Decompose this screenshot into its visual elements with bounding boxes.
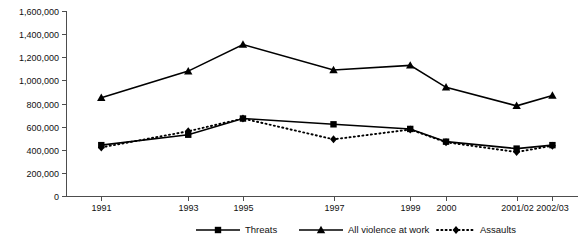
x-axis-label: 1999 <box>400 203 420 213</box>
x-axis-ticks <box>102 197 553 202</box>
series-all-violence-at-work <box>97 40 557 109</box>
x-axis-label: 1997 <box>324 203 344 213</box>
y-axis-label: 600,000 <box>26 123 59 133</box>
legend-item-all-violence-at-work[interactable]: All violence at work <box>299 224 430 235</box>
legend-item-threats[interactable]: Threats <box>196 224 277 235</box>
triangle-marker <box>184 67 192 74</box>
series-line <box>101 45 552 106</box>
y-axis-label: 1,200,000 <box>19 53 59 63</box>
y-axis-label: 200,000 <box>26 169 59 179</box>
x-axis-label: 2001/02 <box>501 203 534 213</box>
legend-label: All violence at work <box>348 224 430 235</box>
series-threats <box>98 115 556 151</box>
y-axis-ticks <box>62 12 67 197</box>
diamond-marker <box>330 135 337 143</box>
triangle-marker <box>442 83 450 90</box>
x-axis: 1991199319951997199920002001/022002/03 <box>67 197 579 214</box>
legend-label: Assaults <box>480 224 516 235</box>
legend-label: Threats <box>245 224 277 235</box>
diamond-marker <box>453 226 460 234</box>
x-axis-tick-labels: 1991199319951997199920002001/022002/03 <box>91 203 568 213</box>
square-marker <box>215 227 221 233</box>
series-plot-area <box>97 40 557 156</box>
x-axis-label: 1993 <box>178 203 198 213</box>
y-axis-label: 1,400,000 <box>19 30 59 40</box>
y-axis-label: 800,000 <box>26 100 59 110</box>
chart-legend: ThreatsAll violence at workAssaults <box>196 224 516 235</box>
legend-item-assaults[interactable]: Assaults <box>437 224 516 235</box>
x-axis-label: 1995 <box>233 203 253 213</box>
series-line <box>101 119 552 149</box>
triangle-marker <box>239 40 247 47</box>
y-axis-label: 1,000,000 <box>19 76 59 86</box>
series-assaults <box>98 115 556 157</box>
y-axis-label: 400,000 <box>26 146 59 156</box>
square-marker <box>330 121 336 127</box>
y-axis-label: 0 <box>54 192 59 202</box>
x-axis-label: 2000 <box>436 203 456 213</box>
line-chart: 0200,000400,000600,000800,0001,000,0001,… <box>0 0 588 243</box>
y-axis-tick-labels: 0200,000400,000600,000800,0001,000,0001,… <box>19 7 59 202</box>
triangle-marker <box>548 91 556 98</box>
x-axis-label: 1991 <box>91 203 111 213</box>
y-axis-label: 1,600,000 <box>19 7 59 17</box>
chart-canvas: 0200,000400,000600,000800,0001,000,0001,… <box>0 0 588 243</box>
y-axis: 0200,000400,000600,000800,0001,000,0001,… <box>19 7 67 202</box>
x-axis-label: 2002/03 <box>536 203 569 213</box>
